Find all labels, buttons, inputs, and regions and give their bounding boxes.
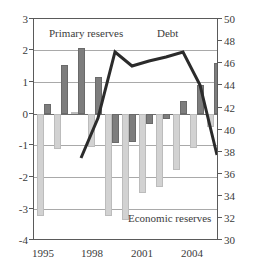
- annotation-debt: Debt: [157, 28, 178, 39]
- y2-axis-tick-mark: [218, 173, 222, 174]
- annotation-primary-reserves: Primary reserves: [49, 28, 123, 39]
- debt-line-series: [34, 19, 217, 239]
- y-axis-tick-label: 0: [2, 109, 28, 120]
- y2-axis-tick-label: 40: [224, 125, 252, 136]
- y2-axis-tick-mark: [218, 107, 222, 108]
- y2-axis-tick-mark: [218, 195, 222, 196]
- y2-axis-tick-label: 38: [224, 147, 252, 158]
- y2-axis-tick-mark: [218, 239, 222, 240]
- y2-axis-tick-mark: [218, 129, 222, 130]
- y-axis-tick-label: 1: [2, 77, 28, 88]
- debt-line-path: [81, 52, 217, 158]
- y2-axis-tick-mark: [218, 40, 222, 41]
- y-axis-tick-label: 2: [2, 45, 28, 56]
- y-axis-tick-label: -3: [2, 204, 28, 215]
- x-axis-tick-label: 2001: [122, 248, 162, 259]
- y2-axis-tick-label: 44: [224, 80, 252, 91]
- x-axis-tick-label: 2004: [172, 248, 212, 259]
- y2-axis-tick-label: 32: [224, 213, 252, 224]
- annotation-economic-reserves: Economic reserves: [128, 213, 211, 224]
- y2-axis-tick-label: 48: [224, 36, 252, 47]
- y2-axis-tick-label: 50: [224, 14, 252, 25]
- y2-axis-tick-mark: [218, 151, 222, 152]
- plot-area: Primary reserves Debt Economic reserves: [33, 18, 218, 240]
- y2-axis-tick-label: 42: [224, 103, 252, 114]
- y-axis-tick-label: -1: [2, 140, 28, 151]
- y-axis-tick-label: 3: [2, 14, 28, 25]
- y2-axis-tick-label: 36: [224, 169, 252, 180]
- y2-axis-tick-label: 34: [224, 191, 252, 202]
- x-axis-tick-label: 1995: [23, 248, 63, 259]
- y-axis-tick-label: -2: [2, 172, 28, 183]
- chart-figure: 3 2 1 0 -1 -2 -3 -4 50 48 46 44 42 40 38…: [0, 0, 262, 275]
- x-axis-tick-label: 1998: [72, 248, 112, 259]
- y2-axis-tick-mark: [218, 18, 222, 19]
- y2-axis-tick-label: 30: [224, 235, 252, 246]
- y2-axis-tick-mark: [218, 217, 222, 218]
- y2-axis-tick-label: 46: [224, 58, 252, 69]
- y2-axis-tick-mark: [218, 84, 222, 85]
- y-axis-tick-label: -4: [2, 235, 28, 246]
- y2-axis-tick-mark: [218, 62, 222, 63]
